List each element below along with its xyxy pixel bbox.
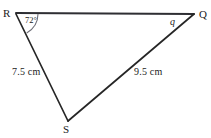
vertex-label-r: R: [3, 8, 10, 19]
side-label-sq: 9.5 cm: [134, 67, 162, 77]
side-label-rs: 7.5 cm: [12, 67, 40, 77]
angle-label-r: 72°: [25, 16, 37, 25]
side-RQ-line: [16, 13, 194, 14]
vertex-label-q: Q: [199, 9, 207, 20]
vertex-label-s: S: [63, 124, 69, 135]
triangle-diagram: R Q S 72° 7.5 cm 9.5 cm q: [0, 0, 211, 138]
side-label-rq: q: [170, 17, 175, 27]
side-SQ-line: [68, 14, 194, 121]
